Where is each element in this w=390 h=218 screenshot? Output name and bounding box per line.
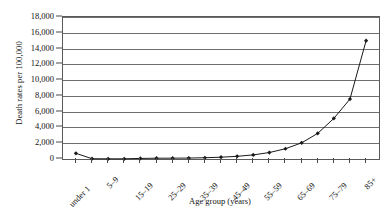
x-axis-tick-mark	[220, 158, 221, 163]
plot-area	[62, 16, 380, 160]
x-axis-tick-mark	[301, 158, 302, 163]
data-point-marker	[267, 150, 271, 154]
y-axis-tick-labels: 02,0004,0006,0008,00010,00012,00014,0001…	[0, 0, 62, 218]
y-axis-tick-label: 16,000	[31, 27, 54, 37]
x-axis-tick-label: 65–69	[309, 165, 331, 187]
y-axis-tick-label: 10,000	[31, 74, 54, 84]
data-point-marker	[300, 141, 304, 145]
x-axis-tick-mark	[172, 158, 173, 163]
death-rate-line-chart: Death rates per 100,000 02,0004,0006,000…	[0, 0, 390, 218]
y-axis-tick-label: 8,000	[35, 90, 54, 100]
x-axis-tick-mark	[284, 158, 285, 163]
x-axis-tick-mark	[156, 158, 157, 163]
x-axis-tick-label: 45–49	[245, 165, 267, 187]
x-axis-tick-label: under 1	[85, 165, 110, 190]
x-axis-tick-label: 15–19	[148, 165, 170, 187]
x-axis-tick-mark	[252, 158, 253, 163]
x-axis-tick-mark	[365, 158, 366, 163]
x-axis-tick-label: 75–79	[342, 165, 364, 187]
data-point-marker	[283, 147, 287, 151]
y-axis-tick-label: 12,000	[31, 58, 54, 68]
data-point-marker	[364, 39, 368, 43]
x-axis-tick-mark	[139, 158, 140, 163]
y-axis-tick-label: 4,000	[35, 121, 54, 131]
x-axis-tick-mark	[333, 158, 334, 163]
x-axis-tick-mark	[236, 158, 237, 163]
x-axis-tick-mark	[349, 158, 350, 163]
y-axis-tick-label: 14,000	[31, 43, 54, 53]
x-axis-tick-mark	[188, 158, 189, 163]
x-axis-title: Age group (years)	[62, 196, 378, 206]
x-axis-tick-mark	[317, 158, 318, 163]
x-axis-tick-label: 25–29	[180, 165, 202, 187]
x-axis-tick-label: 85+	[372, 165, 388, 181]
x-axis-tick-label: 35–39	[213, 165, 235, 187]
x-axis-tick-label: 55–59	[277, 165, 299, 187]
x-axis-tick-mark	[204, 158, 205, 163]
y-axis-tick-label: 2,000	[35, 137, 54, 147]
data-series-line	[63, 17, 379, 159]
x-axis-tick-mark	[107, 158, 108, 163]
x-axis-tick-label: 5–9	[113, 165, 129, 181]
x-axis-tick-mark	[268, 158, 269, 163]
data-point-marker	[251, 153, 255, 157]
x-axis-tick-mark	[91, 158, 92, 163]
y-axis-tick-label: 18,000	[31, 11, 54, 21]
y-axis-tick-label: 6,000	[35, 106, 54, 116]
y-axis-tick-label: 0	[50, 153, 54, 163]
x-axis-tick-mark	[123, 158, 124, 163]
x-axis-tick-mark	[75, 158, 76, 163]
series-polyline	[76, 41, 366, 159]
data-point-marker	[74, 151, 78, 155]
